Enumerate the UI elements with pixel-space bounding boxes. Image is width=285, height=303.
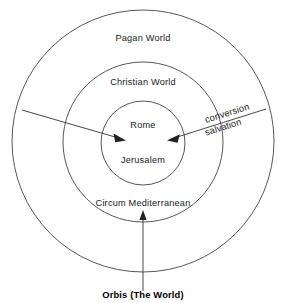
figure-caption: Orbis (The World) [102,289,184,300]
middle-ring-label: Christian World [110,77,176,87]
zone-label-circum-mediterranean: Circum Mediterranean [96,198,191,208]
core-label-jerusalem: Jerusalem [121,155,165,165]
orbis-flow-arrowhead-icon [139,210,146,220]
outer-ring-label: Pagan World [115,33,170,43]
right-flow-arrowhead-icon [167,134,180,143]
inner-ring-core [101,101,185,185]
diagram-canvas: Pagan World Christian World Rome Jerusal… [0,0,285,303]
core-label-rome: Rome [130,120,155,130]
left-flow-line [22,110,122,139]
orbis-concentric-diagram: Pagan World Christian World Rome Jerusal… [0,0,285,303]
left-flow-arrowhead-icon [114,134,127,143]
